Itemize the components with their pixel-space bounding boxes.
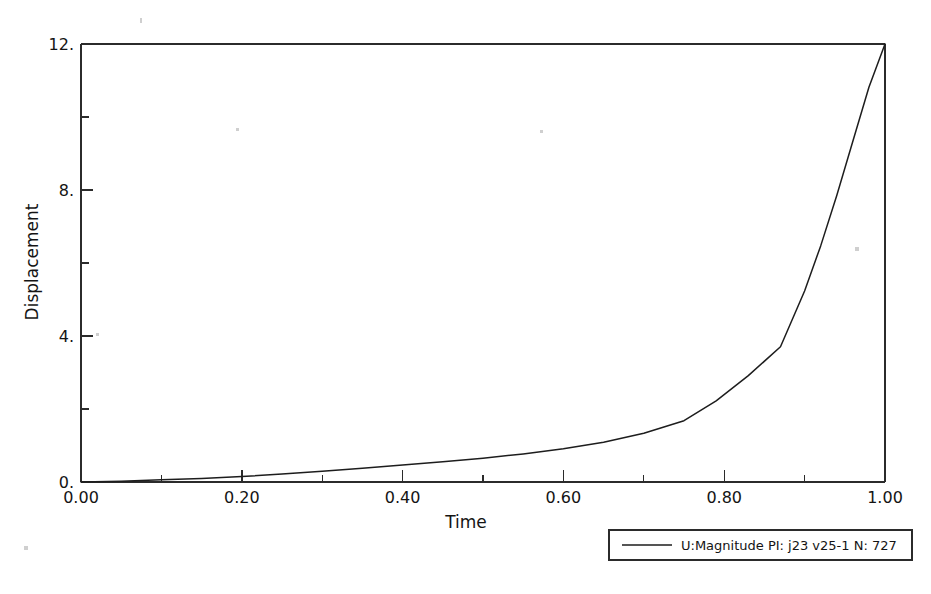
x-tick-label: 0.40 — [385, 488, 421, 507]
plot-frame — [81, 44, 885, 482]
x-tick-label: 0.80 — [706, 488, 742, 507]
chart-legend: U:Magnitude PI: j23 v25-1 N: 727 — [609, 530, 912, 560]
y-axis-title: Displacement — [22, 203, 42, 320]
data-series-line — [81, 44, 885, 482]
x-tick-label: 0.20 — [224, 488, 260, 507]
displacement-time-chart: 0. 4. 8. 12. 0.00 0.20 0.40 0.60 0.80 — [0, 0, 931, 594]
chart-container: 0. 4. 8. 12. 0.00 0.20 0.40 0.60 0.80 — [0, 0, 931, 594]
x-tick-label: 1.00 — [867, 488, 903, 507]
scan-speck — [96, 333, 99, 336]
scan-speck — [24, 546, 28, 550]
x-tick-label: 0.00 — [63, 488, 99, 507]
x-tick-labels: 0.00 0.20 0.40 0.60 0.80 1.00 — [63, 488, 903, 507]
scan-speck — [855, 247, 859, 251]
scan-speck — [236, 128, 239, 131]
scan-speck — [140, 18, 142, 23]
y-tick-labels: 0. 4. 8. 12. — [49, 35, 74, 492]
x-axis-title: Time — [444, 512, 487, 532]
y-tick-label: 8. — [59, 181, 74, 200]
y-axis-ticks — [81, 44, 93, 482]
x-tick-label: 0.60 — [546, 488, 582, 507]
legend-entry-label: U:Magnitude PI: j23 v25-1 N: 727 — [681, 538, 897, 553]
y-tick-label: 4. — [59, 327, 74, 346]
y-tick-label: 12. — [49, 35, 74, 54]
scan-speck — [540, 130, 543, 133]
x-axis-ticks — [81, 470, 885, 482]
